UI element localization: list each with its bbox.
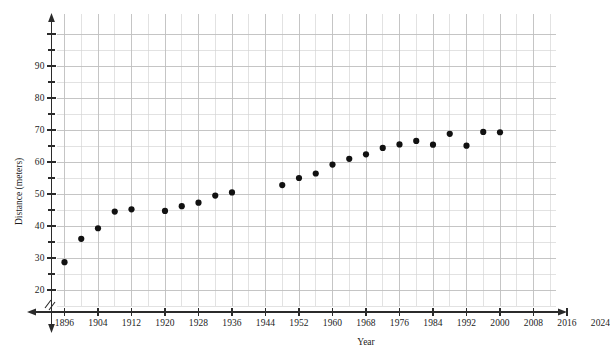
data-point (162, 208, 168, 214)
data-point (413, 138, 419, 144)
x-tick-label: 2000 (490, 318, 509, 328)
data-point (296, 175, 302, 181)
axis-lines (27, 13, 567, 333)
x-tick-label: 1960 (323, 318, 342, 328)
x-tick-label: 1976 (390, 318, 409, 328)
y-tick-label: 50 (35, 189, 45, 199)
data-point (212, 193, 218, 199)
data-point (95, 225, 101, 231)
y-tick-label: 80 (35, 93, 45, 103)
x-tick-label: 1992 (457, 318, 476, 328)
data-point (346, 156, 352, 162)
y-tick-label: 60 (35, 157, 45, 167)
data-point (78, 236, 84, 242)
data-point (112, 209, 118, 215)
x-axis-arrow-right (558, 309, 567, 316)
x-tick-label: 2024 (591, 318, 610, 328)
x-tick-label: 1920 (155, 318, 174, 328)
x-tick-label: 1904 (88, 318, 107, 328)
data-point (363, 151, 369, 157)
axis-break-marker (45, 300, 55, 310)
data-point (463, 143, 469, 149)
data-point (279, 182, 285, 188)
x-tick-label: 1936 (222, 318, 241, 328)
x-tick-label: 1952 (289, 318, 308, 328)
x-tick-label: 1896 (55, 318, 74, 328)
y-tick-label: 90 (35, 61, 45, 71)
x-tick-label: 1912 (122, 318, 141, 328)
x-axis-title: Year (357, 337, 375, 347)
data-point (128, 206, 134, 212)
x-axis-arrow-left (27, 309, 36, 316)
major-gridlines (57, 14, 556, 306)
x-tick-label: 1984 (423, 318, 442, 328)
data-point (430, 142, 436, 148)
data-point (447, 131, 453, 137)
y-tick-label: 40 (35, 221, 45, 231)
y-axis-title: Distance (meters) (14, 158, 24, 225)
data-point (229, 189, 235, 195)
data-point (329, 161, 335, 167)
data-point (480, 129, 486, 135)
x-tick-label: 2016 (557, 318, 576, 328)
data-point (195, 200, 201, 206)
x-tick-label: 1944 (256, 318, 275, 328)
y-tick-label: 30 (35, 253, 45, 263)
data-point (313, 170, 319, 176)
data-point (497, 129, 503, 135)
x-tick-label: 1968 (356, 318, 375, 328)
y-axis-arrow-up (48, 13, 55, 22)
data-point (396, 141, 402, 147)
data-point (380, 145, 386, 151)
x-tick-label: 2008 (524, 318, 543, 328)
x-tick-label: 1928 (189, 318, 208, 328)
y-tick-label: 20 (35, 285, 45, 295)
data-point (61, 259, 67, 265)
y-tick-label: 70 (35, 125, 45, 135)
data-point (179, 203, 185, 209)
